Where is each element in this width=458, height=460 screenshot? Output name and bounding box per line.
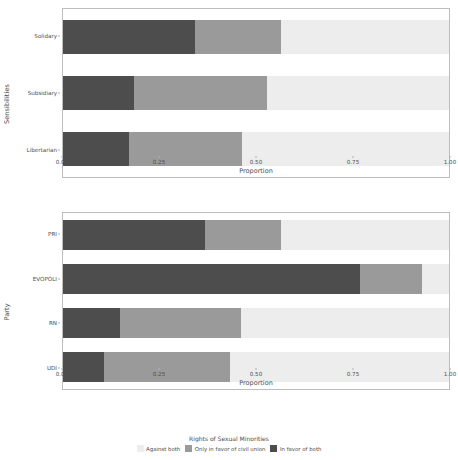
y-tick-labels-sensibilities: SolidarySubsidiaryLibertarian — [14, 8, 60, 178]
x-tick-mark — [62, 156, 63, 158]
y-tick-mark — [58, 36, 60, 37]
x-tick-label: 0.75 — [347, 159, 359, 165]
y-axis-title-sensibilities: Sensibilities — [0, 8, 14, 200]
y-tick-mark — [58, 93, 60, 94]
y-tick-mark — [58, 323, 60, 324]
bar-segment — [134, 76, 267, 111]
bar-segment — [281, 20, 449, 55]
x-tick-mark — [159, 368, 160, 370]
bar-rn — [63, 308, 449, 338]
y-tick-mark — [58, 234, 60, 235]
legend: Rights of Sexual Minorities Against both… — [0, 435, 458, 452]
x-tick-label: 1.00 — [444, 159, 456, 165]
legend-item[interactable]: Against both — [137, 445, 181, 452]
legend-items: Against bothOnly in favor of civil union… — [0, 445, 458, 452]
legend-swatch-icon — [270, 445, 277, 452]
y-tick-label: PRI — [48, 231, 57, 237]
bar-segment — [422, 264, 449, 294]
bar-segment — [267, 76, 449, 111]
x-tick-label: 0.00 — [56, 371, 68, 377]
y-axis-title-party: Party — [0, 212, 14, 412]
bar-subsidiary — [63, 76, 449, 111]
x-axis-title-party: Proportion — [62, 379, 450, 387]
plot-area-sensibilities — [62, 8, 450, 178]
y-tick-label: RN — [49, 320, 57, 326]
x-tick-mark — [256, 156, 257, 158]
bar-segment — [195, 20, 281, 55]
y-tick-label: Subsidiary — [28, 90, 57, 96]
y-tick-mark — [58, 367, 60, 368]
x-tick-label: 0.25 — [153, 159, 165, 165]
bar-segment — [63, 220, 205, 250]
x-tick-label: 0.50 — [250, 159, 262, 165]
x-tick-mark — [353, 368, 354, 370]
panel-sensibilities: Sensibilities SolidarySubsidiaryLibertar… — [0, 8, 458, 200]
x-tick-label: 0.50 — [250, 371, 262, 377]
x-tick-label: 1.00 — [444, 371, 456, 377]
y-tick-labels-party: PRIEVOPOLIRNUDI — [14, 212, 60, 390]
x-axis-party: Proportion 0.000.250.500.751.00 — [62, 368, 450, 390]
legend-item[interactable]: Only in favor of civil union — [185, 445, 265, 452]
y-tick-label: Libertarian — [27, 147, 57, 153]
x-axis-title-sensibilities: Proportion — [62, 167, 450, 175]
panel-party: Party PRIEVOPOLIRNUDI Proportion 0.000.2… — [0, 212, 458, 412]
bar-segment — [241, 308, 449, 338]
x-tick-mark — [62, 368, 63, 370]
x-tick-mark — [256, 368, 257, 370]
legend-swatch-icon — [137, 445, 144, 452]
bar-segment — [63, 308, 120, 338]
x-axis-sensibilities: Proportion 0.000.250.500.751.00 — [62, 156, 450, 178]
y-tick-mark — [58, 149, 60, 150]
bar-segment — [360, 264, 423, 294]
y-tick-label: UDI — [47, 365, 57, 371]
x-tick-mark — [450, 368, 451, 370]
bar-segment — [63, 76, 134, 111]
bar-solidary — [63, 20, 449, 55]
legend-item-label: Only in favor of civil union — [195, 446, 266, 452]
plot-area-party — [62, 212, 450, 390]
legend-item-label: Against both — [146, 446, 180, 452]
legend-title: Rights of Sexual Minorities — [0, 435, 458, 442]
legend-item-label: In favor of both — [280, 446, 322, 452]
bar-segment — [63, 20, 195, 55]
bar-evopoli — [63, 264, 449, 294]
bar-segment — [205, 220, 281, 250]
legend-swatch-icon — [185, 445, 192, 452]
legend-item[interactable]: In favor of both — [270, 445, 321, 452]
y-tick-mark — [58, 278, 60, 279]
y-tick-label: EVOPOLI — [33, 276, 57, 282]
x-tick-mark — [450, 156, 451, 158]
figure-canvas: Sensibilities SolidarySubsidiaryLibertar… — [0, 0, 458, 460]
bar-segment — [281, 220, 449, 250]
x-tick-mark — [159, 156, 160, 158]
x-tick-label: 0.25 — [153, 371, 165, 377]
x-tick-mark — [353, 156, 354, 158]
bar-pri — [63, 220, 449, 250]
x-tick-label: 0.75 — [347, 371, 359, 377]
x-tick-label: 0.00 — [56, 159, 68, 165]
bar-segment — [120, 308, 241, 338]
bar-segment — [63, 264, 360, 294]
y-tick-label: Solidary — [34, 33, 57, 39]
